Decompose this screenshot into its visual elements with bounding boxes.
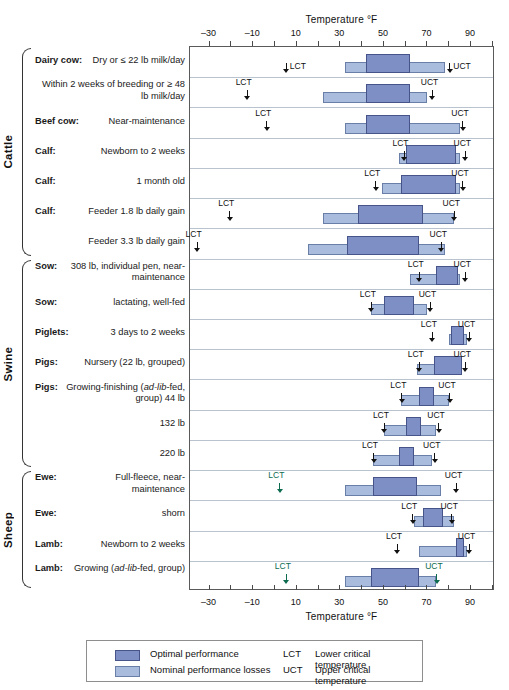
row-label-detail: Nursery (22 lb, grouped): [84, 357, 185, 369]
uct-label: UCT: [421, 78, 438, 87]
row-label-detail: Newborn to 2 weeks: [101, 146, 185, 158]
lct-label: LCT: [401, 502, 417, 511]
axis-tick-labels-top: –30–101030507090: [0, 28, 509, 40]
axis-tick-label: –10: [245, 597, 260, 607]
lct-label: LCT: [275, 562, 291, 571]
axis-tick-label: 10: [291, 597, 301, 607]
chart-row: LCTUCT: [190, 138, 493, 168]
row-label-lead: Calf:: [35, 206, 56, 218]
chart-row: LCTUCT: [190, 440, 493, 470]
lct-label: LCT: [186, 230, 202, 239]
chart-row: LCTUCT: [190, 379, 493, 409]
legend-swatch-nominal: [115, 666, 140, 677]
row-label: Calf:Feeder 1.8 lb daily gain: [35, 206, 185, 218]
row-label: Calf:Newborn to 2 weeks: [35, 146, 185, 158]
chart-row: LCTUCT: [190, 289, 493, 319]
axis-tick-label: –10: [245, 28, 260, 38]
chart-row: LCTUCT: [190, 470, 493, 500]
row-separator: [190, 228, 493, 229]
group-bracket: [22, 471, 31, 588]
chart-row: LCTUCT: [190, 349, 493, 379]
chart-row: LCTUCT: [190, 531, 493, 561]
row-label-detail: Growing-finishing (ad-lib-fed, group) 44…: [64, 382, 185, 405]
axis-tick-label: 90: [465, 597, 475, 607]
row-label-detail: 308 lb, individual pen, near-maintenance: [63, 261, 185, 284]
row-label: Calf:1 month old: [35, 176, 185, 188]
axis-tick-label: 70: [421, 597, 431, 607]
row-label-lead: Dairy cow:: [35, 55, 82, 67]
row-separator: [190, 349, 493, 350]
row-label: Sow:lactating, well-fed: [35, 297, 185, 309]
figure-root: Temperature °F –30–101030507090 LCTUCTLC…: [0, 0, 509, 690]
chart-row: LCTUCT: [190, 107, 493, 137]
row-label: Feeder 3.3 lb daily gain: [35, 236, 185, 248]
row-label-lead: Ewe:: [35, 508, 57, 520]
uct-label: UCT: [451, 109, 468, 118]
row-label-lead: Lamb:: [35, 563, 63, 575]
row-separator: [190, 319, 493, 320]
row-separator: [190, 259, 493, 260]
row-label-detail: Dry or ≤ 22 lb milk/day: [93, 55, 185, 67]
axis-tickmark: [426, 585, 427, 590]
axis-tickmark: [252, 585, 253, 590]
lct-label: LCT: [393, 139, 409, 148]
axis-tickmark: [230, 585, 231, 590]
chart-row: LCTUCT: [190, 259, 493, 289]
legend-row: Optimal performanceLCTLower critical tem…: [87, 647, 422, 663]
bar-optimal-performance: [373, 477, 417, 496]
row-label-detail: Newborn to 2 weeks: [101, 539, 185, 551]
row-label: Piglets:3 days to 2 weeks: [35, 327, 185, 339]
chart-row: LCTUCT: [190, 228, 493, 258]
lct-label: LCT: [362, 441, 378, 450]
axis-tick-label: 30: [334, 28, 344, 38]
chart-row: LCTUCT: [190, 500, 493, 530]
axis-tickmark: [361, 585, 362, 590]
uct-label: UCT: [430, 230, 447, 239]
row-label-lead: Calf:: [35, 176, 56, 188]
row-separator: [190, 168, 493, 169]
axis-tickmark: [339, 585, 340, 590]
uct-label: UCT: [427, 411, 444, 420]
axis-tickmark: [470, 585, 471, 590]
lct-label: LCT: [360, 290, 376, 299]
row-label-detail: shorn: [162, 508, 185, 520]
row-label-detail: Growing (ad-lib-fed, group): [74, 563, 185, 575]
axis-tickmark: [448, 585, 449, 590]
row-label-detail: 1 month old: [136, 176, 185, 188]
axis-tick-label: 10: [291, 28, 301, 38]
legend-label: Optimal performance: [150, 648, 239, 659]
bar-optimal-performance: [401, 175, 455, 194]
row-separator: [190, 561, 493, 562]
bar-optimal-performance: [419, 387, 434, 406]
bar-optimal-performance: [371, 568, 419, 587]
axis-tickmark: [405, 585, 406, 590]
row-label-lead: Calf:: [35, 146, 56, 158]
uct-label: UCT: [423, 441, 440, 450]
uct-label: UCT: [454, 139, 471, 148]
row-label: Within 2 weeks of breeding or ≥ 48 lb mi…: [35, 79, 185, 102]
axis-title-bottom: Temperature °F: [189, 611, 494, 622]
bar-optimal-performance: [406, 145, 456, 164]
lct-label: LCT: [255, 109, 271, 118]
row-label-detail: lactating, well-fed: [113, 297, 185, 309]
bar-optimal-performance: [347, 236, 419, 255]
axis-tick-label: 90: [465, 28, 475, 38]
chart-row: LCTUCT: [190, 168, 493, 198]
legend-box: Optimal performanceLCTLower critical tem…: [86, 640, 423, 682]
uct-label: UCT: [453, 62, 470, 71]
row-label: 132 lb: [35, 418, 185, 430]
axis-tick-labels-bottom: –30–101030507090: [0, 597, 509, 609]
axis-tickmark: [383, 585, 384, 590]
uct-label: UCT: [454, 350, 471, 359]
row-separator: [190, 410, 493, 411]
group-label-swine: Swine: [2, 260, 14, 468]
row-separator: [190, 107, 493, 108]
axis-tickmark: [296, 585, 297, 590]
row-label-detail: 220 lb: [160, 448, 185, 458]
chart-row: LCTUCT: [190, 198, 493, 228]
row-label-detail: Feeder 1.8 lb daily gain: [88, 206, 185, 218]
axis-tickmark: [492, 585, 493, 590]
row-label-lead: Sow:: [35, 297, 57, 309]
lct-label: LCT: [364, 169, 380, 178]
legend-label: Nominal performance losses: [150, 664, 270, 675]
